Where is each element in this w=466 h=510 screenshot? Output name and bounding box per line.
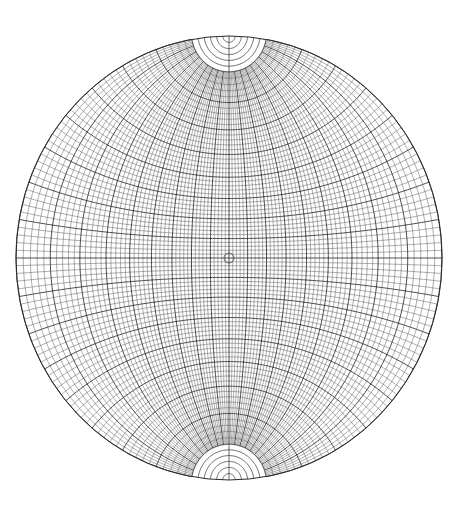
stereonet-diagram [0,0,466,510]
great-circles [16,39,442,476]
wulff-net [0,0,466,510]
